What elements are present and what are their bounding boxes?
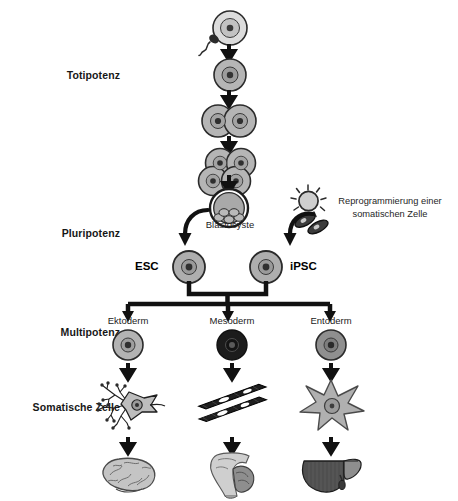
two-cell-stage-icon bbox=[195, 103, 265, 139]
arrow-hepatocyte-to-liver bbox=[324, 437, 338, 454]
mesoderm-cell-icon bbox=[214, 328, 252, 362]
brain-icon bbox=[96, 455, 160, 495]
germ-layer-label-mesoderm: Mesoderm bbox=[192, 315, 272, 326]
entoderm-cell-icon bbox=[313, 328, 351, 362]
ipsc-label: iPSC bbox=[290, 260, 317, 272]
stage-label-multipotenz: Multipotenz bbox=[0, 326, 120, 338]
germ-layer-label-ektoderm: Ektoderm bbox=[88, 315, 168, 326]
muscle-fiber-icon bbox=[196, 382, 272, 426]
hepatocyte-icon bbox=[296, 378, 366, 432]
neuron-icon bbox=[95, 378, 165, 430]
arrow-mesoderm-to-muscle-cell bbox=[225, 363, 239, 380]
muscle-arm-icon bbox=[205, 452, 261, 500]
stem-cell-differentiation-figure: Totipotenz Pluripotenz Multipotenz Somat… bbox=[0, 0, 458, 501]
ektoderm-cell-icon bbox=[110, 328, 148, 362]
germ-layer-label-entoderm: Entoderm bbox=[291, 315, 371, 326]
stage-label-totipotenz: Totipotenz bbox=[0, 69, 120, 81]
liver-icon bbox=[298, 453, 364, 495]
reprogramming-caption: Reprogrammierung einer somatischen Zelle bbox=[322, 195, 458, 220]
esc-label: ESC bbox=[135, 260, 159, 272]
reprogramming-caption-line2: somatischen Zelle bbox=[353, 209, 428, 219]
one-cell-stage-icon bbox=[209, 58, 251, 92]
reprogramming-caption-line1: Reprogrammierung einer bbox=[338, 196, 441, 206]
stage-label-pluripotenz: Pluripotenz bbox=[0, 227, 120, 239]
arrow-neuron-to-brain bbox=[121, 437, 135, 454]
